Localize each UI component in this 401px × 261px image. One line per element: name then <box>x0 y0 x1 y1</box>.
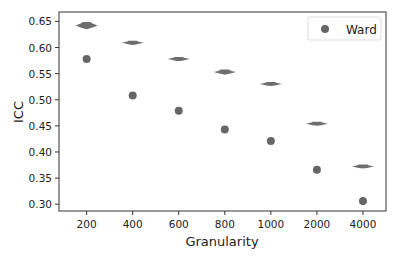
y-tick-label: 0.45 <box>29 120 52 132</box>
x-tick-label: 600 <box>169 218 189 230</box>
violin-layer <box>76 22 374 169</box>
y-axis-label: ICC <box>11 101 26 123</box>
data-point <box>83 55 91 63</box>
y-tick-label: 0.35 <box>29 172 52 184</box>
data-point <box>221 126 229 134</box>
violin <box>214 69 236 74</box>
x-tick-label: 200 <box>77 218 97 230</box>
data-point <box>313 166 321 174</box>
data-point <box>129 92 137 100</box>
points-layer <box>83 55 367 205</box>
violin <box>352 165 374 169</box>
x-tick-label: 4000 <box>350 218 377 230</box>
y-tick-label: 0.40 <box>29 146 52 158</box>
legend: Ward <box>308 17 381 40</box>
violin <box>168 57 190 61</box>
data-point <box>359 197 367 205</box>
legend-marker <box>321 25 329 33</box>
x-tick-label: 400 <box>123 218 143 230</box>
data-point <box>267 137 275 145</box>
y-tick-label: 0.60 <box>29 42 52 54</box>
violin <box>76 22 98 29</box>
x-tick-label: 800 <box>215 218 235 230</box>
plot-frame <box>59 12 386 211</box>
y-tick-label: 0.55 <box>29 68 52 80</box>
chart: 0.300.350.400.450.500.550.600.65 2004006… <box>0 0 401 261</box>
x-tick-label: 2000 <box>304 218 331 230</box>
x-axis-label: Granularity <box>185 234 258 249</box>
y-tick-label: 0.65 <box>29 15 52 27</box>
y-tick-label: 0.30 <box>29 198 52 210</box>
x-tick-label: 1000 <box>257 218 284 230</box>
legend-label: Ward <box>346 23 377 37</box>
data-point <box>175 107 183 115</box>
y-tick-label: 0.50 <box>29 94 52 106</box>
violin <box>260 82 282 86</box>
violin <box>306 122 328 126</box>
y-axis: 0.300.350.400.450.500.550.600.65 <box>29 15 59 210</box>
x-axis: 200400600800100020004000 <box>77 211 377 230</box>
violin <box>122 41 144 45</box>
